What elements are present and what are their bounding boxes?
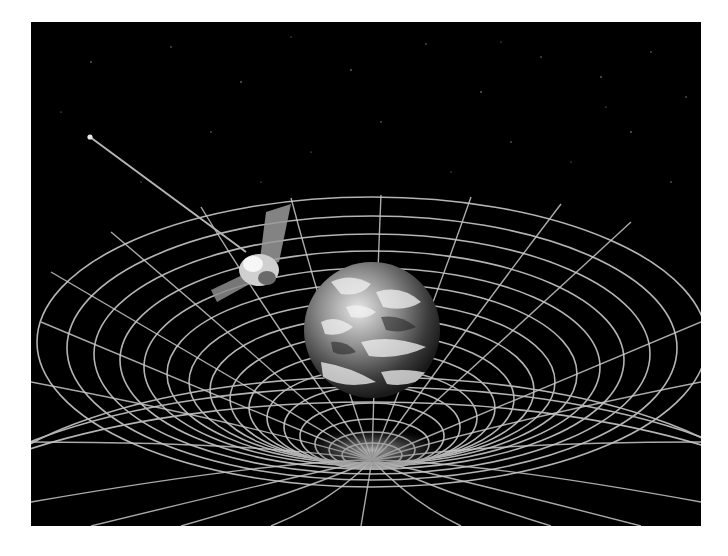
starfield: [60, 36, 686, 182]
gravity-well: [302, 428, 442, 472]
spacetime-scene: [31, 22, 701, 526]
space-illustration: [31, 22, 701, 526]
earth: [304, 262, 440, 398]
antenna-tip: [87, 134, 92, 139]
